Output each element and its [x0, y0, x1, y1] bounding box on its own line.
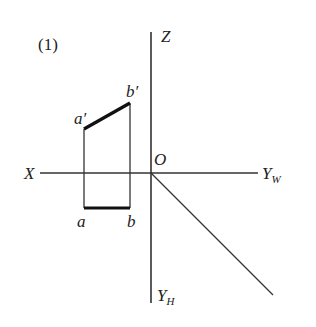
yw-axis-label: YW [262, 164, 281, 185]
point-b-label: b [127, 212, 136, 231]
origin-label: O [154, 150, 166, 169]
z-axis-label: Z [161, 27, 171, 46]
yw-subscript: W [271, 173, 281, 185]
x-axis-label: X [23, 164, 35, 183]
45-degree-line [151, 173, 273, 295]
yh-subscript: H [165, 295, 175, 307]
point-a-prime-label: a′ [74, 109, 87, 128]
point-a-label: a [77, 212, 86, 231]
yh-axis-label: YH [157, 286, 175, 307]
front-projection-ab [84, 103, 130, 129]
projection-diagram: (1) Z X O YW YH a′ b′ a b [0, 0, 316, 327]
figure-number: (1) [38, 35, 58, 54]
point-b-prime-label: b′ [126, 82, 139, 101]
